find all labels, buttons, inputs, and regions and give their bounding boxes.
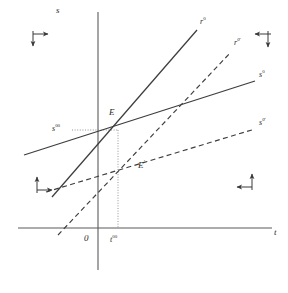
s-double-zero-tick-label: s00 bbox=[52, 124, 60, 133]
r0-locus-line bbox=[52, 30, 197, 197]
origin-label: 0 bbox=[84, 234, 89, 243]
equilibrium-E-prime-label: E′ bbox=[138, 160, 145, 170]
r0-locus-label-sup: 0 bbox=[203, 16, 205, 21]
r0-prime-locus-label: r0' bbox=[234, 38, 241, 47]
arrows-upper-left bbox=[33, 31, 48, 46]
r0-locus-label: r0 bbox=[200, 17, 206, 26]
equilibrium-E-prime-mark: ′ bbox=[144, 159, 145, 165]
vertical-axis-label: s bbox=[56, 6, 60, 15]
arrows-upper-right bbox=[255, 31, 271, 47]
s-double-zero-sup: 00 bbox=[55, 123, 60, 128]
t-double-zero-sup: 00 bbox=[112, 234, 117, 239]
phase-diagram-figure: s t 0 r0 r0' s0 s0' E E′ s00 t00 bbox=[0, 0, 288, 293]
s0-locus-label-sup: 0 bbox=[262, 69, 264, 74]
s0-locus-line bbox=[24, 81, 255, 155]
equilibrium-E-label: E bbox=[109, 108, 115, 117]
s0-prime-locus-label-sup: 0' bbox=[262, 117, 266, 122]
s0-locus-label: s0 bbox=[259, 70, 265, 79]
r0-prime-locus-line bbox=[58, 52, 231, 235]
r0-prime-locus-label-sup: 0' bbox=[237, 37, 241, 42]
horizontal-axis-label: t bbox=[274, 228, 277, 237]
t-double-zero-tick-label: t00 bbox=[110, 235, 117, 244]
phase-diagram-canvas bbox=[0, 0, 288, 293]
arrows-lower-right bbox=[237, 174, 252, 190]
s0-prime-locus-label: s0' bbox=[259, 118, 266, 127]
equilibrium-E-label-text: E bbox=[109, 107, 115, 117]
